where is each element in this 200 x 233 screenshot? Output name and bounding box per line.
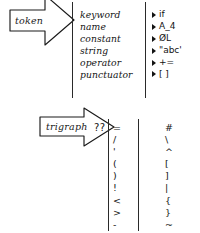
triangle-bullet-icon (152, 60, 156, 66)
token-separator-rule-2 (145, 2, 146, 98)
trigraph-source-char: ( (113, 158, 121, 170)
trigraph-replacement-char: { (165, 195, 173, 207)
token-example: if (152, 9, 182, 21)
trigraph-source-char: > (113, 207, 121, 219)
trigraph-replacement-char: ] (165, 170, 173, 182)
trigraph-separator-rule-1 (108, 119, 109, 231)
trigraph-replacement-list: # \ ^ [ ] | { } ~ (165, 122, 173, 231)
token-example-list: if A_4 ØL "abc' += [ ] (152, 9, 182, 80)
token-example: A_4 (152, 21, 182, 33)
triangle-bullet-icon (152, 24, 156, 30)
token-example-text: [ ] (159, 69, 169, 81)
triangle-bullet-icon (152, 48, 156, 54)
triangle-bullet-icon (152, 12, 156, 18)
token-example: ØL (152, 33, 182, 45)
trigraph-replacement-char: [ (165, 158, 173, 170)
trigraph-source-list: = / ' ( ) ! < > - (113, 122, 121, 231)
token-category: name (80, 21, 133, 33)
token-example: += (152, 57, 182, 69)
trigraph-source-char: = (113, 122, 121, 134)
token-example-text: += (159, 57, 174, 69)
token-category: keyword (80, 9, 133, 21)
trigraph-replacement-char: ^ (165, 146, 173, 158)
token-category-list: keyword name constant string operator pu… (80, 9, 133, 80)
trigraph-source-char: ' (113, 146, 121, 158)
trigraph-replacement-char: \ (165, 134, 173, 146)
token-arrow-label: token (15, 15, 43, 26)
token-example-text: A_4 (159, 21, 175, 33)
trigraph-source-char: ! (113, 182, 121, 194)
token-example-text: "abc' (159, 45, 182, 57)
trigraph-arrow-label: trigraph (46, 121, 87, 132)
token-category: string (80, 45, 133, 57)
token-separator-rule-1 (72, 2, 73, 98)
token-example-text: if (159, 9, 165, 21)
token-example-text: ØL (159, 33, 171, 45)
trigraph-separator-rule-2 (138, 119, 139, 231)
trigraph-replacement-char: ~ (165, 219, 173, 231)
triangle-bullet-icon (152, 71, 156, 77)
trigraph-source-char: ) (113, 170, 121, 182)
token-category: punctuator (80, 69, 133, 81)
trigraph-source-char: / (113, 134, 121, 146)
diagram-canvas: token keyword name constant string opera… (0, 0, 200, 233)
trigraph-replacement-char: # (165, 122, 173, 134)
trigraph-replacement-char: | (165, 182, 173, 194)
token-category: operator (80, 57, 133, 69)
trigraph-source-char: < (113, 195, 121, 207)
triangle-bullet-icon (152, 36, 156, 42)
trigraph-prefix-label: ?? (94, 122, 106, 133)
token-example: [ ] (152, 69, 182, 81)
trigraph-replacement-char: } (165, 207, 173, 219)
token-example: "abc' (152, 45, 182, 57)
token-category: constant (80, 33, 133, 45)
trigraph-source-char: - (113, 219, 121, 231)
